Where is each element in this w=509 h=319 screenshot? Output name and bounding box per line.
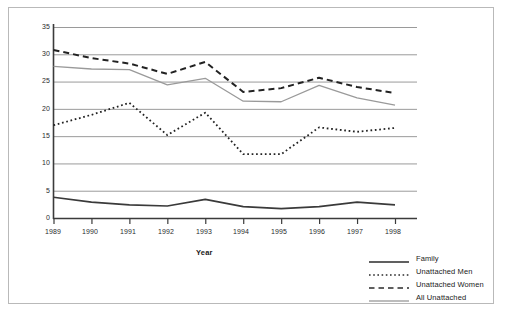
legend-swatch-dotted	[368, 266, 410, 276]
data-series	[54, 50, 396, 209]
series-line-family	[54, 197, 396, 208]
axis-lines	[53, 24, 417, 219]
legend-swatch-solid	[368, 253, 410, 263]
legend-label: Unattached Women	[410, 280, 484, 289]
legend-label: Unattached Men	[410, 267, 472, 276]
series-line-unattached-men	[54, 103, 396, 154]
series-line-unattached-women	[54, 50, 396, 93]
legend-item-family: Family	[368, 252, 492, 264]
legend: Family Unattached Men Unattached Women A…	[368, 252, 492, 304]
chart-figure: Percentage Year 35 30 25 20 15 10 5 0 19…	[0, 0, 509, 319]
legend-item-unattached-women: Unattached Women	[368, 278, 492, 290]
gridlines	[54, 28, 418, 192]
legend-label: Family	[410, 254, 439, 263]
legend-item-all-unattached: All Unattached	[368, 291, 492, 303]
series-line-all-unattached	[54, 66, 396, 105]
legend-swatch-dashed	[368, 279, 410, 289]
legend-item-unattached-men: Unattached Men	[368, 265, 492, 277]
legend-label: All Unattached	[410, 293, 466, 302]
legend-swatch-solid-light	[368, 292, 410, 302]
